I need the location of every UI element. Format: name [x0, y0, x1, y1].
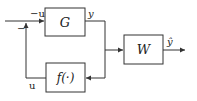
- input-label: −u: [30, 8, 45, 19]
- W-label: W: [137, 42, 152, 57]
- yhat-label: ŷ: [166, 36, 173, 47]
- u-label: u: [29, 80, 36, 91]
- block-diagram: −u − G f(·) W y u ŷ: [0, 0, 197, 101]
- f-label: f(·): [56, 71, 75, 85]
- y-label: y: [87, 8, 94, 19]
- G-label: G: [60, 15, 70, 30]
- feedback-line: [26, 23, 46, 78]
- y-line: [85, 21, 105, 78]
- summing-sign: −: [17, 23, 25, 34]
